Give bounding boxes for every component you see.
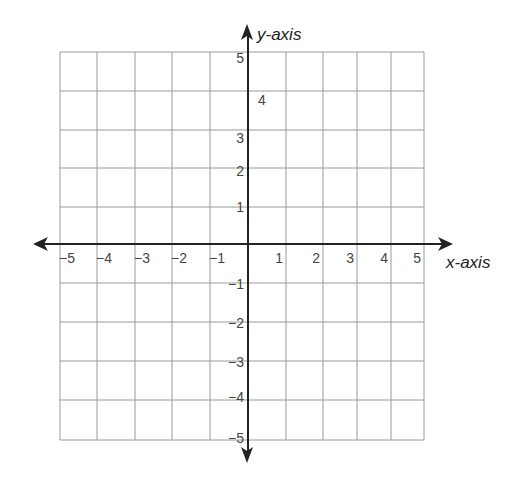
x-tick-label: 2	[312, 250, 320, 266]
x-tick-label: −3	[134, 250, 150, 266]
y-tick-label: −5	[228, 430, 244, 446]
y-tick-label: 1	[236, 199, 244, 215]
y-tick-label: 3	[236, 130, 244, 146]
y-tick-label: 4	[258, 92, 266, 108]
x-tick-label: −4	[96, 250, 112, 266]
x-tick-label: 3	[346, 250, 354, 266]
y-tick-label: 5	[236, 50, 244, 66]
x-tick-label: −2	[171, 250, 187, 266]
y-tick-label: 2	[236, 163, 244, 179]
x-tick-label: 4	[380, 250, 388, 266]
x-tick-label: −1	[209, 250, 225, 266]
grid	[60, 52, 424, 440]
x-tick-labels: −5−4−3−2−112345	[59, 250, 421, 266]
coordinate-plane: −5−4−3−2−112345 54321−1−2−3−4−5 y-axis x…	[0, 0, 519, 485]
y-tick-label: −2	[228, 315, 244, 331]
x-tick-label: 5	[413, 250, 421, 266]
x-tick-label: −5	[59, 250, 75, 266]
x-tick-label: 1	[275, 250, 283, 266]
x-axis-label: x-axis	[445, 253, 491, 272]
y-tick-label: −4	[228, 389, 244, 405]
y-axis-label: y-axis	[256, 25, 302, 44]
y-tick-label: −3	[228, 354, 244, 370]
x-axis	[33, 237, 453, 251]
y-tick-label: −1	[228, 276, 244, 292]
